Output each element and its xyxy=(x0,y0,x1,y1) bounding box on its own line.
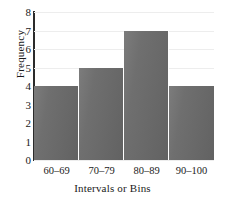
gridline xyxy=(34,160,214,161)
gridline xyxy=(34,12,214,13)
y-tick-label: 0 xyxy=(5,155,31,166)
histogram-chart: Frequency 8 7 6 5 4 3 2 1 0 60–69 70–79 … xyxy=(0,0,225,201)
x-axis-title: Intervals or Bins xyxy=(0,182,225,194)
y-tick-label: 4 xyxy=(5,81,31,92)
bar xyxy=(79,68,124,161)
x-tick-label: 60–69 xyxy=(34,163,79,179)
y-tick-label: 8 xyxy=(5,7,31,18)
y-axis-tick-labels: 8 7 6 5 4 3 2 1 0 xyxy=(0,0,31,201)
y-tick-label: 7 xyxy=(5,26,31,37)
x-axis-tick-labels: 60–69 70–79 80–89 90–100 xyxy=(34,163,214,179)
y-tick-label: 1 xyxy=(5,137,31,148)
bar xyxy=(34,86,79,160)
plot-area xyxy=(34,12,214,160)
x-tick-label: 90–100 xyxy=(169,163,214,179)
x-tick-label: 80–89 xyxy=(124,163,169,179)
y-tick-label: 3 xyxy=(5,100,31,111)
bar xyxy=(169,86,214,160)
y-tick-label: 5 xyxy=(5,63,31,74)
x-tick-label: 70–79 xyxy=(79,163,124,179)
y-tick-label: 6 xyxy=(5,44,31,55)
bar xyxy=(124,31,169,161)
y-tick-label: 2 xyxy=(5,118,31,129)
